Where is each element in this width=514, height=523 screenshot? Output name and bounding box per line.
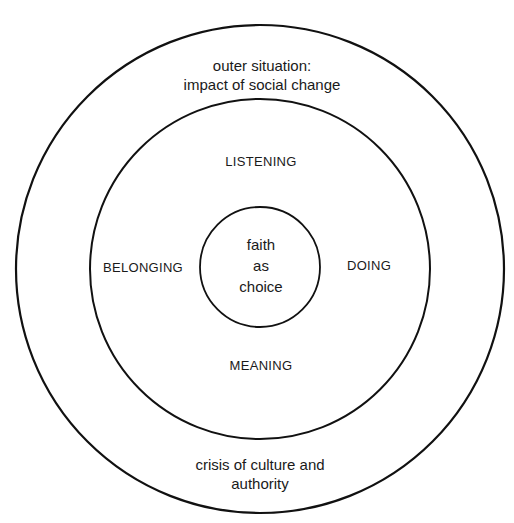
outer-bottom-line2: authority — [195, 474, 324, 493]
outer-bottom-label: crisis of culture and authority — [195, 455, 324, 493]
meaning-label: MEANING — [230, 358, 293, 373]
listening-label: LISTENING — [225, 154, 296, 169]
center-line1: faith — [239, 234, 282, 255]
outer-top-line2: impact of social change — [184, 75, 341, 94]
center-line2: as — [239, 255, 282, 276]
belonging-label: BELONGING — [103, 260, 183, 275]
center-label: faith as choice — [239, 234, 282, 297]
outer-bottom-line1: crisis of culture and — [195, 455, 324, 474]
outer-top-label: outer situation: impact of social change — [184, 56, 341, 94]
doing-label: DOING — [347, 258, 391, 273]
outer-top-line1: outer situation: — [184, 56, 341, 75]
center-line3: choice — [239, 276, 282, 297]
